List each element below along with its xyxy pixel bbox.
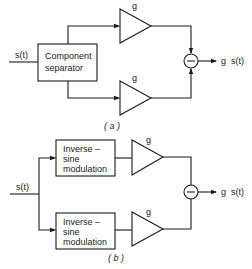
block-diagram: s(t) Component separator g g g s(t) ( a … bbox=[0, 0, 252, 269]
top-to-summer-arrow-a bbox=[151, 26, 191, 53]
caption-a: ( a ) bbox=[104, 121, 120, 131]
separator-label-line1: Component bbox=[45, 51, 92, 61]
amplifier-top-b bbox=[132, 140, 163, 175]
amplifier-top-a bbox=[120, 9, 151, 43]
inverse-sine-modulation-box-top: Inverse – sine modulation bbox=[56, 140, 115, 176]
amplifier-bottom-b bbox=[132, 212, 163, 246]
gain-label-top-a: g bbox=[132, 1, 137, 11]
output-label-a: g s(t) bbox=[221, 56, 244, 66]
separator-label-line2: separator bbox=[45, 63, 83, 73]
component-separator-box: Component separator bbox=[38, 44, 97, 81]
mod-bottom-line3: modulation bbox=[63, 237, 107, 247]
caption-b: ( b ) bbox=[108, 253, 124, 263]
top-branch-arrow-b bbox=[39, 158, 55, 194]
panel-b: s(t) Inverse – sine modulation Inverse –… bbox=[10, 135, 244, 263]
input-label-a: s(t) bbox=[15, 50, 28, 60]
mod-top-line1: Inverse – bbox=[63, 144, 100, 154]
bottom-branch-arrow-a bbox=[68, 81, 119, 98]
subtractor-a bbox=[184, 54, 198, 68]
bottom-to-summer-arrow-a bbox=[151, 69, 191, 98]
output-label-b: g s(t) bbox=[221, 187, 244, 197]
bottom-branch-arrow-b bbox=[39, 194, 55, 230]
panel-a: s(t) Component separator g g g s(t) ( a … bbox=[9, 1, 244, 131]
top-to-summer-line-b bbox=[163, 157, 191, 185]
gain-label-bottom-b: g bbox=[146, 207, 151, 217]
gain-label-top-b: g bbox=[146, 135, 151, 145]
mod-bottom-line1: Inverse – bbox=[63, 217, 100, 227]
gain-label-bottom-a: g bbox=[132, 73, 137, 83]
mod-top-line3: modulation bbox=[63, 164, 107, 174]
mod-bottom-line2: sine bbox=[63, 227, 80, 237]
amplifier-bottom-a bbox=[120, 81, 151, 115]
input-label-b: s(t) bbox=[16, 182, 29, 192]
inverse-sine-modulation-box-bottom: Inverse – sine modulation bbox=[56, 213, 115, 249]
bottom-to-summer-line-b bbox=[163, 199, 191, 229]
mod-top-line2: sine bbox=[63, 154, 80, 164]
subtractor-b bbox=[184, 185, 198, 199]
top-branch-arrow-a bbox=[68, 26, 119, 44]
